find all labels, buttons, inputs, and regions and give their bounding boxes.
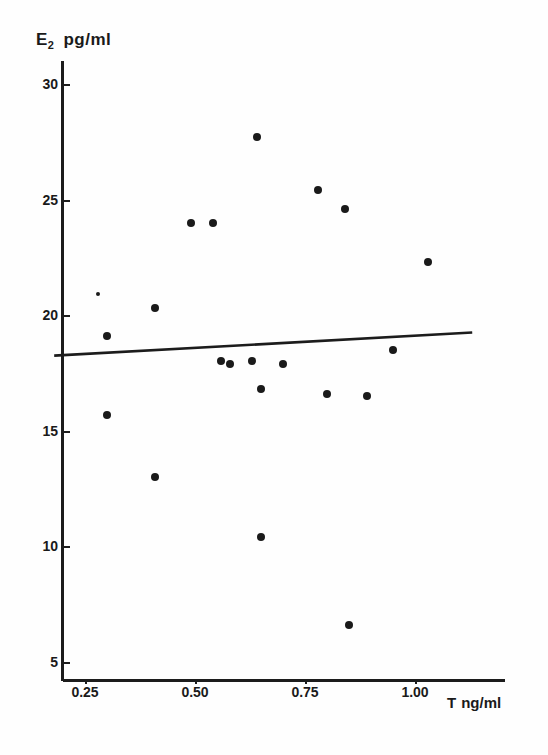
data-point: [345, 621, 353, 629]
data-point: [257, 385, 265, 393]
data-point: [209, 219, 217, 227]
y-tick-label: 30: [22, 76, 58, 92]
y-tick-mark: [64, 662, 70, 664]
y-axis-title: E2pg/ml: [36, 30, 111, 51]
y-axis-title-base: E: [36, 30, 48, 49]
plot-area: [0, 0, 548, 755]
y-tick-label: 20: [22, 307, 58, 323]
y-tick-mark: [64, 431, 70, 433]
x-tick-label: 0.50: [169, 684, 221, 700]
data-point: [151, 473, 159, 481]
x-axis-title-base: T: [447, 694, 456, 711]
data-point: [341, 205, 349, 213]
data-point: [314, 186, 322, 194]
y-axis-line: [61, 61, 64, 681]
x-tick-label: 0.25: [59, 684, 111, 700]
y-tick-label: 5: [22, 654, 58, 670]
data-point: [279, 360, 287, 368]
data-point: [389, 346, 397, 354]
regression-line: [0, 0, 548, 755]
y-tick-mark: [64, 315, 70, 317]
data-point: [363, 392, 371, 400]
x-axis-line: [63, 679, 505, 682]
y-axis-title-subscript: 2: [48, 39, 55, 51]
y-tick-mark: [64, 546, 70, 548]
scatter-plot-figure: E2pg/ml Tng/ml 51015202530 0.250.500.751…: [0, 0, 548, 755]
data-point: [103, 411, 111, 419]
x-axis-title: Tng/ml: [447, 694, 501, 711]
y-axis-title-unit: pg/ml: [63, 30, 111, 49]
data-point: [253, 133, 261, 141]
y-tick-label: 15: [22, 423, 58, 439]
data-point: [217, 357, 225, 365]
data-point: [248, 357, 256, 365]
x-tick-label: 0.75: [279, 684, 331, 700]
data-point: [257, 533, 265, 541]
y-tick-label: 25: [22, 192, 58, 208]
data-point: [96, 292, 100, 296]
data-point: [226, 360, 234, 368]
y-tick-label: 10: [22, 538, 58, 554]
y-tick-mark: [64, 84, 70, 86]
data-point: [103, 332, 111, 340]
data-point: [187, 219, 195, 227]
data-point: [323, 390, 331, 398]
data-point: [424, 258, 432, 266]
x-axis-title-unit: ng/ml: [461, 694, 501, 711]
x-tick-label: 1.00: [389, 684, 441, 700]
data-point: [151, 304, 159, 312]
y-tick-mark: [64, 200, 70, 202]
